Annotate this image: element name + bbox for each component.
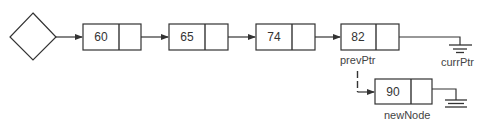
prev-ptr-label: prevPtr (340, 54, 376, 66)
new-node: 90 (375, 79, 432, 104)
list-node-4: 82 (341, 24, 399, 50)
node-value: 65 (180, 30, 194, 44)
list-node-3: 74 (256, 24, 315, 50)
ground-null-icon (449, 45, 472, 53)
new-node-label: newNode (384, 109, 430, 121)
link-node-4-to-null (399, 37, 460, 45)
ground-null-icon (445, 100, 467, 107)
node-value: 90 (386, 85, 400, 99)
link-new-node-to-null (432, 89, 456, 100)
linked-list-diagram: 60 65 74 82 prevPtr currPtr 90 newNode (0, 0, 486, 126)
list-node-2: 65 (169, 24, 228, 50)
curr-ptr-label: currPtr (441, 56, 474, 68)
head-diamond (10, 13, 56, 60)
node-value: 82 (351, 30, 365, 44)
node-value: 74 (267, 30, 281, 44)
node-value: 60 (94, 30, 108, 44)
list-node-1: 60 (83, 24, 141, 50)
